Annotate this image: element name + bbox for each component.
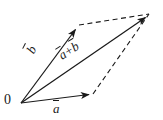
vector-sum-line xyxy=(21,18,146,104)
construction-line-a-to-corner xyxy=(93,14,149,94)
vector-diagram-canvas xyxy=(0,0,163,120)
vector-a-label: a xyxy=(53,102,60,115)
vector-addition-figure: 0 a b a+b xyxy=(0,0,163,120)
vector-a-label-text: a xyxy=(53,102,60,115)
construction-line-b-to-corner xyxy=(79,14,149,25)
origin-label: 0 xyxy=(4,93,11,107)
